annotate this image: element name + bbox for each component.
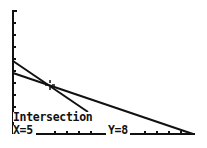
- line-y2: [13, 73, 193, 134]
- y-value-label: Y=8: [106, 125, 130, 135]
- x-axis: [13, 131, 195, 134]
- x-value-label: X=5: [13, 125, 36, 135]
- calculator-screen: Intersection X=5 Y=8: [0, 0, 207, 148]
- intersection-title: Intersection: [13, 112, 93, 122]
